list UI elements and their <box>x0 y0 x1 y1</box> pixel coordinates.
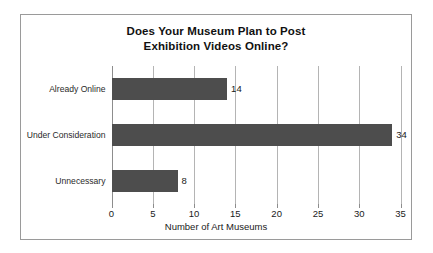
bar-value-label: 8 <box>178 170 187 192</box>
category-label: Under Consideration <box>27 124 106 146</box>
bar <box>112 78 228 100</box>
x-axis-tick-group: 05101520253035 <box>112 204 401 220</box>
chart-frame: Does Your Museum Plan to Post Exhibition… <box>20 14 412 240</box>
chart-title-line-2: Exhibition Videos Online? <box>21 39 411 54</box>
bar-value-label: 14 <box>227 78 242 100</box>
bar-row: Under Consideration34 <box>112 112 401 158</box>
x-tick-label: 10 <box>189 208 200 219</box>
x-tick-label: 35 <box>395 208 406 219</box>
bar-row: Unnecessary8 <box>112 158 401 204</box>
bar-value-label: 34 <box>392 124 407 146</box>
category-label: Unnecessary <box>55 170 105 192</box>
x-tick-label: 5 <box>150 208 155 219</box>
plot-area: Already Online14Under Consideration34Unn… <box>112 66 401 204</box>
chart-title-line-1: Does Your Museum Plan to Post <box>21 24 411 39</box>
x-tick-label: 30 <box>354 208 365 219</box>
category-label: Already Online <box>49 78 105 100</box>
bar <box>112 170 178 192</box>
chart-title: Does Your Museum Plan to Post Exhibition… <box>21 24 411 53</box>
x-tick-label: 25 <box>313 208 324 219</box>
x-tick-label: 0 <box>109 208 114 219</box>
bar <box>112 124 393 146</box>
bar-row: Already Online14 <box>112 66 401 112</box>
x-tick-label: 15 <box>230 208 241 219</box>
x-axis-title: Number of Art Museums <box>21 221 411 232</box>
x-tick-label: 20 <box>271 208 282 219</box>
